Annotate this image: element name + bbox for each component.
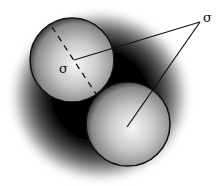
sigma-label-outer: σ [203, 10, 212, 25]
sigma-label-inner: σ [59, 61, 68, 76]
two-spheres-diagram: σ σ [0, 0, 224, 186]
sphere-2 [86, 82, 170, 166]
sphere-1 [30, 18, 114, 102]
